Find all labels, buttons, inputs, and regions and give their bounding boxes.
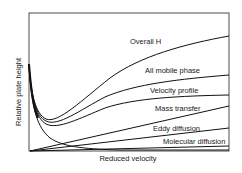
label-velocity-profile: Velocity profile [150, 86, 198, 95]
label-eddy-diffusion: Eddy diffusion [153, 124, 200, 133]
x-axis-label: Reduced velocity [99, 154, 156, 163]
label-all-mobile-phase: All mobile phase [145, 66, 200, 75]
plate-height-chart: Overall H All mobile phase Velocity prof… [0, 0, 242, 173]
label-overall-h: Overall H [130, 37, 161, 46]
label-molecular-diffusion: Molecular diffusion [163, 137, 225, 146]
y-axis-label: Relative plate height [14, 57, 23, 126]
label-mass-transfer: Mass transfer [155, 104, 201, 113]
